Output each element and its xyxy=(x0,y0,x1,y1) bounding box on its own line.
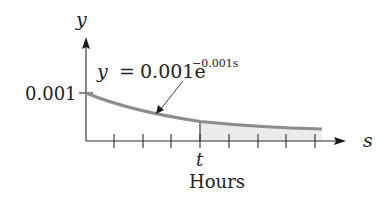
equation-equals: = xyxy=(119,60,135,82)
t-label: t xyxy=(196,149,204,170)
annotation-arrow xyxy=(160,81,183,110)
equation-lhs: y xyxy=(96,60,108,82)
y-tick-label: 0.001 xyxy=(25,83,77,104)
y-axis-label: y xyxy=(75,8,87,30)
x-axis-title: Hours xyxy=(189,171,245,192)
x-axis-label: s xyxy=(363,129,373,151)
decay-figure: y s 0.001 t Hours y = 0.001e −0.001s xyxy=(0,0,389,207)
equation-exponent: −0.001s xyxy=(192,57,239,70)
